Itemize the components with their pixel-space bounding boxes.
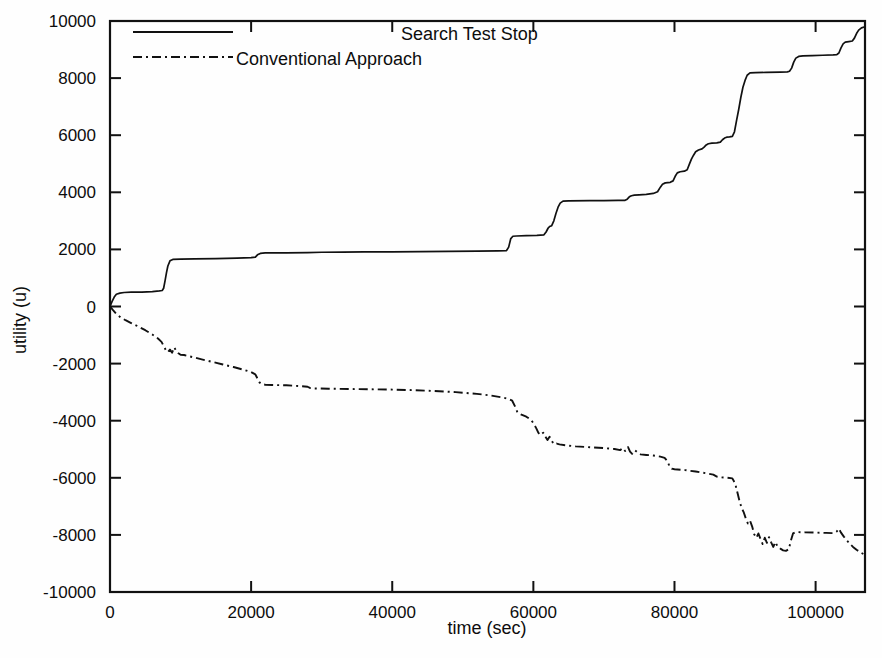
y-tick-label-8000: 8000: [58, 69, 96, 88]
x-tick-label-20000: 20000: [227, 603, 274, 622]
plot-frame: [110, 21, 865, 592]
plot-frame-rect: [110, 21, 865, 592]
x-axis-ticks: [251, 21, 815, 592]
y-tick-label--6000: -6000: [53, 469, 96, 488]
x-axis-title: time (sec): [447, 618, 526, 638]
y-tick-label--2000: -2000: [53, 355, 96, 374]
plot-canvas: -10000-8000-6000-4000-200002000400060008…: [0, 0, 882, 658]
x-tick-label-0: 0: [105, 603, 114, 622]
y-tick-label--10000: -10000: [43, 583, 96, 602]
y-tick-label-6000: 6000: [58, 126, 96, 145]
series-line-search-test-stop: [110, 27, 865, 307]
y-axis-title: utility (u): [10, 286, 30, 354]
x-tick-label-100000: 100000: [787, 603, 844, 622]
y-tick-label-4000: 4000: [58, 183, 96, 202]
chart-figure: -10000-8000-6000-4000-200002000400060008…: [0, 0, 882, 658]
x-tick-label-40000: 40000: [369, 603, 416, 622]
y-axis-ticks: [110, 78, 865, 535]
y-tick-label-10000: 10000: [49, 12, 96, 31]
y-tick-label--8000: -8000: [53, 526, 96, 545]
y-tick-label--4000: -4000: [53, 412, 96, 431]
chart-legend: Search Test Stop Conventional Approach: [133, 24, 538, 69]
series-layer: [110, 27, 865, 555]
legend-label-conventional-approach: Conventional Approach: [236, 49, 422, 69]
series-line-conventional-approach: [110, 307, 865, 555]
legend-label-search-test-stop: Search Test Stop: [401, 24, 538, 44]
y-tick-label-0: 0: [87, 298, 96, 317]
x-tick-label-80000: 80000: [651, 603, 698, 622]
y-axis-tick-labels: -10000-8000-6000-4000-200002000400060008…: [43, 12, 96, 602]
y-tick-label-2000: 2000: [58, 240, 96, 259]
